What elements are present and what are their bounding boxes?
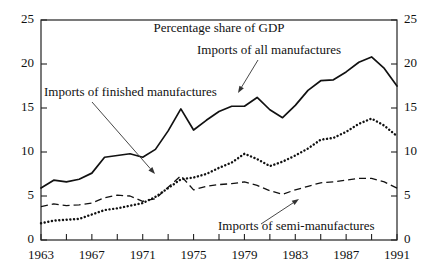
y-axis-tick-label-right: 20 [404,55,417,70]
y-axis-tick-label: 15 [21,99,34,114]
annotation-label-imports-finished-manufactures: Imports of finished manufactures [44,84,217,99]
y-axis-tick-label: 5 [28,187,35,202]
annotation-layer: Imports of all manufacturesImports of fi… [44,42,375,233]
x-axis-tick-label: 1983 [282,247,308,262]
x-axis-tick-label: 1963 [28,247,54,262]
x-axis-tick-label: 1987 [333,247,360,262]
percentage-share-of-gdp-line-chart: 0510152025 0510152025 196319671971197519… [0,0,434,274]
x-axis-tick-label: 1991 [384,247,410,262]
chart-title: Percentage share of GDP [153,20,284,35]
y-axis-right-ticks [391,20,397,240]
x-axis-tick-label: 1971 [130,247,156,262]
x-axis-tick-label: 1967 [79,247,106,262]
y-axis-tick-label-right: 0 [404,231,411,246]
y-axis-tick-label-right: 5 [404,187,411,202]
x-axis-ticks [41,234,397,240]
x-axis-tick-label: 1975 [181,247,207,262]
y-axis-left-labels: 0510152025 [21,11,34,246]
annotation-arrowhead-imports-all-manufactures [238,86,244,93]
y-axis-tick-label: 25 [21,11,34,26]
annotation-arrowhead-imports-semi-manufactures [292,199,299,205]
y-axis-tick-label-right: 10 [404,143,417,158]
x-axis-tick-label: 1979 [231,247,257,262]
chart-container: 0510152025 0510152025 196319671971197519… [0,0,434,274]
y-axis-tick-label-right: 25 [404,11,417,26]
y-axis-tick-label: 20 [21,55,34,70]
annotation-leader-imports-finished-manufactures [92,102,150,169]
y-axis-right-labels: 0510152025 [404,11,417,246]
y-axis-tick-label: 0 [28,231,35,246]
annotation-label-imports-all-manufactures: Imports of all manufactures [197,42,341,57]
y-axis-tick-label: 10 [21,143,34,158]
annotation-label-imports-semi-manufactures: Imports of semi-manufactures [218,218,375,233]
series-lines [41,57,397,223]
series-line-dashed [41,176,397,207]
y-axis-tick-label-right: 15 [404,99,417,114]
x-axis-labels: 19631967197119751979198319871991 [28,247,410,262]
annotation-leader-imports-all-manufactures [242,60,258,87]
